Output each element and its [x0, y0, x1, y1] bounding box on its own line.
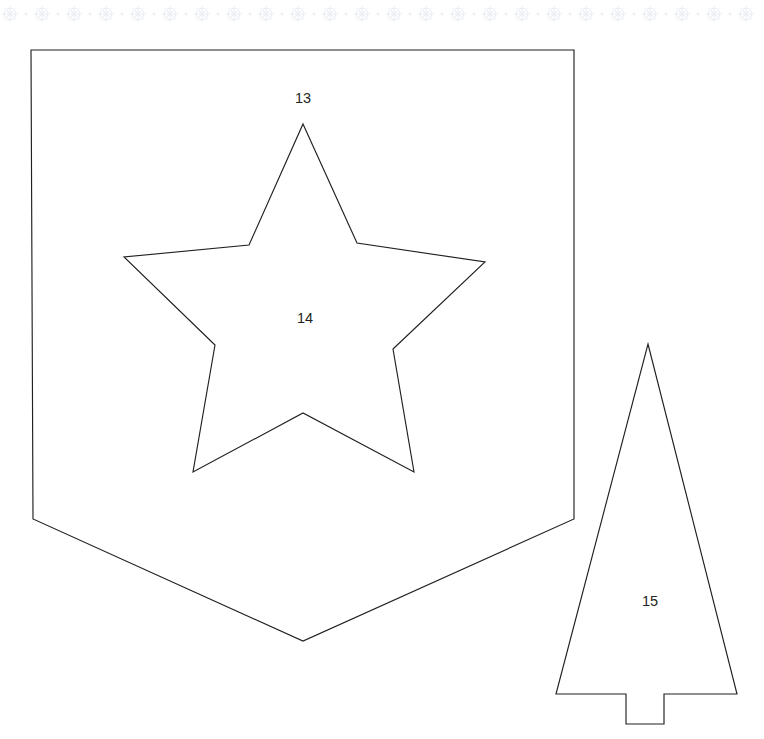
star-shape[interactable]	[124, 124, 485, 472]
piece-number-14: 14	[297, 310, 313, 326]
piece-number-13: 13	[295, 90, 311, 106]
tree-shape[interactable]	[556, 344, 737, 724]
template-sheet-page: 13 14 15	[0, 0, 764, 739]
template-shapes-canvas: 13 14 15	[0, 0, 764, 739]
piece-number-15: 15	[642, 593, 658, 609]
banner-shape[interactable]	[31, 50, 574, 641]
